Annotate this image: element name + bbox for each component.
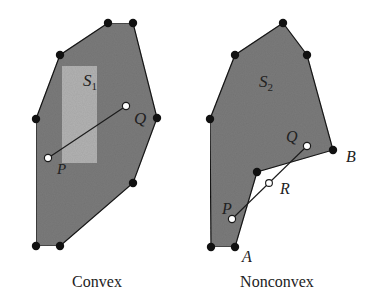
- label-q-nonconvex: Q: [286, 128, 298, 145]
- point-r-nonconvex: [266, 180, 273, 187]
- point-p-convex: [44, 154, 51, 161]
- nonconvex-vertex-dot: [231, 51, 239, 59]
- label-a: A: [241, 248, 252, 265]
- convex-vertex-dot: [104, 19, 112, 27]
- nonconvex-vertex-dot: [303, 51, 311, 59]
- nonconvex-vertex-dot: [206, 115, 214, 123]
- nonconvex-vertex-dot: [279, 19, 287, 27]
- label-p-convex: P: [56, 161, 66, 177]
- nonconvex-vertex-dot: [329, 146, 337, 154]
- convex-vertex-dot: [56, 51, 64, 59]
- caption-convex: Convex: [72, 273, 122, 290]
- label-r: R: [279, 180, 290, 197]
- convex-vertex-dot: [32, 115, 40, 123]
- convex-vertex-dot: [153, 114, 161, 122]
- convex-vertex-dot: [129, 19, 137, 27]
- nonconvex-set: S2 Q B R P A: [206, 19, 356, 265]
- convex-vertex-dot: [129, 179, 137, 187]
- nonconvex-vertex-dot: [253, 168, 261, 176]
- label-b: B: [346, 148, 356, 165]
- convex-set: S1 Q P: [32, 19, 161, 250]
- label-q-convex: Q: [134, 109, 146, 128]
- nonconvex-vertex-dot: [231, 243, 239, 251]
- convex-vertex-dot: [32, 242, 40, 250]
- label-p-nonconvex: P: [221, 200, 232, 217]
- convexity-diagram: S1 Q P S2 Q B R P A Convex Nonconvex: [0, 0, 383, 299]
- convex-vertex-dot: [56, 242, 64, 250]
- nonconvex-vertex-dot: [207, 243, 215, 251]
- caption-nonconvex: Nonconvex: [240, 273, 314, 290]
- point-q-convex: [122, 102, 129, 109]
- point-q-nonconvex: [303, 142, 310, 149]
